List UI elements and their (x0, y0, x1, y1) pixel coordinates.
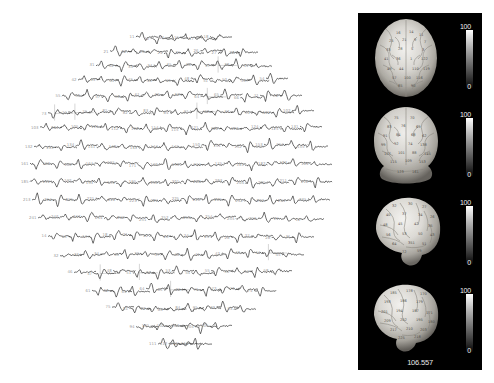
erp-trace[interactable] (270, 269, 292, 275)
channel-label: 54 (260, 76, 265, 81)
erp-trace[interactable] (211, 267, 233, 276)
channel-label: 51 (126, 270, 131, 275)
erp-trace[interactable] (222, 249, 244, 259)
brain-row-posterior[interactable]: 7570 837669 91846862 999274138 107101881… (358, 103, 482, 189)
channel-label: 255 (227, 216, 235, 221)
channel-label: 56 (224, 269, 229, 274)
channel-label: 42 (215, 251, 220, 256)
erp-trace[interactable] (154, 61, 176, 69)
erp-trace[interactable] (302, 216, 324, 221)
superior-view[interactable]: 161411 252197 332853 41361122 4944110119… (362, 15, 450, 101)
erp-trace[interactable] (300, 124, 322, 132)
erp-trace[interactable] (115, 62, 137, 72)
channel-label: 224 (150, 198, 158, 203)
svg-text:138: 138 (420, 143, 428, 147)
left-lateral-view[interactable]: 323027 40373426 48454235 56535043 643515… (362, 191, 450, 277)
erp-trace[interactable] (141, 92, 163, 98)
channel-label: 205 (258, 180, 266, 185)
erp-trace[interactable] (280, 90, 302, 100)
erp-trace[interactable] (292, 233, 314, 243)
erp-trace[interactable] (133, 270, 155, 278)
erp-trace[interactable] (306, 141, 328, 151)
erp-trace[interactable] (210, 322, 232, 329)
erp-trace[interactable] (250, 64, 272, 68)
svg-text:83: 83 (387, 125, 392, 129)
erp-trace[interactable] (62, 93, 84, 100)
svg-text:27: 27 (422, 205, 427, 209)
svg-text:101: 101 (398, 151, 405, 155)
channel-label: 73 (230, 286, 235, 291)
svg-text:109: 109 (405, 159, 413, 163)
erp-trace[interactable] (228, 77, 250, 83)
channel-label: 245 (117, 215, 125, 220)
erp-trace[interactable] (266, 73, 288, 83)
erp-trace[interactable] (134, 77, 156, 83)
erp-trace[interactable] (102, 93, 124, 102)
erp-trace[interactable] (191, 75, 213, 83)
erp-trace[interactable] (97, 76, 119, 82)
erp-trace[interactable] (221, 89, 243, 99)
erp-trace[interactable] (172, 266, 194, 274)
posterior-view[interactable]: 7570 837669 91846862 999274138 107101881… (362, 103, 450, 189)
channel-label: 84 (175, 305, 180, 310)
erp-trace[interactable] (122, 93, 144, 101)
erp-trace[interactable] (231, 59, 253, 69)
erp-trace[interactable] (310, 162, 332, 166)
erp-trace[interactable] (282, 253, 304, 257)
channel-label: 233 (257, 198, 265, 203)
channel-label: 11 (130, 34, 135, 39)
channel-label: 94 (245, 110, 250, 115)
erp-array-canvas[interactable]: 1112141517182122232425262728313233343536… (0, 0, 356, 383)
channel-label: 51 (203, 78, 208, 83)
brain-renderings-panel[interactable]: 161411 252197 332853 41361122 4944110119… (358, 13, 482, 370)
svg-text:65: 65 (398, 84, 403, 88)
channel-label: 26 (225, 235, 230, 240)
right-lateral-view[interactable]: 185178170 193186179 201194187171 2092021… (362, 279, 450, 365)
svg-text:209: 209 (384, 319, 392, 323)
erp-trace[interactable] (210, 79, 232, 82)
erp-trace[interactable] (292, 105, 314, 114)
channel-label: 92 (204, 109, 209, 114)
channel-label: 113 (131, 126, 139, 131)
erp-trace[interactable] (247, 75, 269, 85)
erp-trace[interactable] (135, 64, 157, 70)
erp-trace[interactable] (172, 78, 194, 86)
erp-trace[interactable] (161, 91, 183, 98)
erp-trace[interactable] (260, 91, 282, 102)
colorbar-gradient (466, 206, 473, 264)
svg-text:48: 48 (383, 223, 388, 227)
svg-text:50: 50 (418, 232, 423, 236)
erp-trace[interactable] (152, 269, 174, 279)
erp-trace[interactable] (82, 89, 104, 99)
erp-trace[interactable] (254, 287, 276, 296)
erp-trace[interactable] (173, 60, 195, 68)
channel-label: 244 (95, 215, 103, 220)
erp-trace[interactable] (94, 269, 116, 279)
erp-trace[interactable] (181, 92, 203, 99)
channel-label: 47 (87, 271, 92, 276)
erp-trace[interactable] (231, 268, 253, 274)
erp-topographic-array[interactable]: 1112141517182122232425262728313233343536… (0, 0, 356, 383)
brain-row-left-lateral[interactable]: 323027 40373426 48454235 56535043 643515… (358, 191, 482, 277)
erp-trace[interactable] (153, 78, 175, 83)
brain-row-superior[interactable]: 161411 252197 332853 41361122 4944110119… (358, 15, 482, 101)
channel-label: 93 (228, 306, 233, 311)
svg-text:119: 119 (423, 67, 431, 71)
erp-trace[interactable] (96, 61, 118, 69)
erp-trace[interactable] (78, 76, 100, 83)
erp-trace[interactable] (262, 250, 284, 257)
erp-trace[interactable] (100, 252, 122, 256)
erp-trace[interactable] (113, 270, 135, 274)
erp-trace[interactable] (192, 61, 214, 70)
svg-text:53: 53 (402, 232, 407, 236)
erp-trace[interactable] (201, 251, 223, 259)
erp-trace[interactable] (308, 196, 330, 203)
brain-row-right-lateral[interactable]: 185178170 193186179 201194187171 2092021… (358, 279, 482, 365)
erp-trace[interactable] (116, 76, 138, 87)
erp-trace[interactable] (240, 93, 262, 102)
erp-trace[interactable] (74, 270, 96, 274)
erp-trace[interactable] (250, 267, 272, 277)
erp-trace[interactable] (234, 305, 256, 312)
erp-trace[interactable] (310, 178, 332, 188)
erp-trace[interactable] (192, 270, 214, 276)
